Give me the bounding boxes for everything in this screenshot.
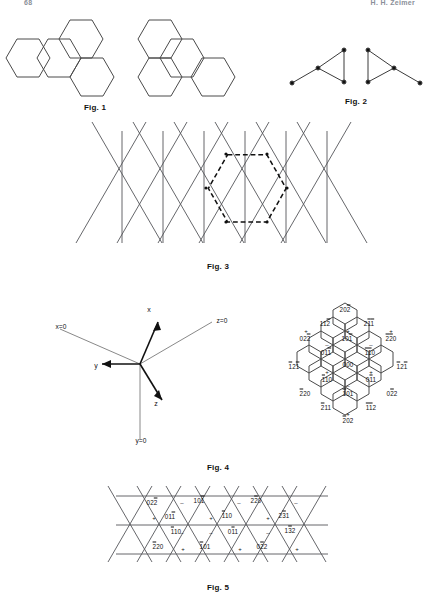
tri-label-101bar: 101 <box>194 497 205 504</box>
caption-fig3: Fig. 3 <box>207 262 229 271</box>
tri-sign-9: – <box>266 530 269 536</box>
hex-sign-3: + <box>389 328 393 334</box>
hex-label-112bar: 112 <box>320 320 330 327</box>
hex-label-202bar: 202 <box>340 306 351 313</box>
hex-sign-7: + <box>369 369 373 375</box>
fig5-diagonal-down-lines <box>108 486 326 562</box>
caption-fig4: Fig. 4 <box>207 463 229 472</box>
tri-sign-10: + <box>181 546 185 552</box>
hex-label-11bar0: 110 <box>365 349 375 356</box>
hex-label-01bar1: 011 <box>366 376 376 383</box>
axis-label-y-zero: y=0 <box>135 437 146 444</box>
tri-label-22bar0: 220 <box>251 497 262 504</box>
hex-label-022bar: 022 <box>300 335 311 342</box>
tri-sign-8: – <box>209 530 212 536</box>
tri-sign-6: + <box>266 515 270 521</box>
fig3-diagonal-up-lines <box>76 122 351 243</box>
hex-label-1bar10: 110 <box>322 376 332 383</box>
hex-label-101bar: 101 <box>342 335 353 342</box>
fig1-right-cluster <box>138 20 235 96</box>
figure-2-graphic <box>288 44 424 88</box>
axis-z-arrow <box>140 364 162 400</box>
caption-fig1: Fig. 1 <box>84 103 106 112</box>
fig2-right-graph <box>366 48 422 85</box>
tri-sign-5: + <box>209 515 213 521</box>
tri-label-13bar2: 132 <box>285 527 296 534</box>
tri-sign-11: + <box>238 546 242 552</box>
hex-sign-2: + <box>346 328 350 334</box>
hex-sign-1: + <box>304 328 308 334</box>
tri-label-1bar10: 110 <box>222 512 232 519</box>
figure-page: 68 H. H. Zeimer Fig. <box>0 0 437 603</box>
hex-sign-8: – <box>346 383 349 389</box>
figure-4-axes-graphic <box>40 296 230 446</box>
tri-label-01bar1: 011 <box>228 528 238 535</box>
caption-fig5: Fig. 5 <box>207 583 229 592</box>
fig3-dashed-hexagon <box>208 155 286 222</box>
tri-sign-2: – <box>237 500 240 506</box>
author-name: H. H. Zeimer <box>371 0 415 6</box>
fig2-left-graph <box>290 48 346 85</box>
tri-label-011bar: 011 <box>165 513 175 520</box>
hex-label-011bar: 011 <box>321 349 331 356</box>
tri-label-2bar20: 220 <box>153 543 164 550</box>
axis-label-x-zero: x=0 <box>55 323 66 330</box>
hex-sign-5: – <box>369 342 372 348</box>
hex-label-22bar0: 220 <box>386 335 397 342</box>
axis-x-zero-line <box>60 329 140 364</box>
hex-label-000: 000 <box>343 361 354 368</box>
hex-label-1bar1bar2: 112 <box>366 404 376 411</box>
tri-sign-3: – <box>294 500 297 506</box>
hex-label-21bar1bar: 211 <box>364 320 374 327</box>
hex-label-2bar11: 211 <box>321 404 331 411</box>
tri-label-1bar01: 101 <box>200 543 211 550</box>
hex-label-1bar21bar: 121 <box>289 363 300 370</box>
running-header: 68 H. H. Zeimer <box>0 0 437 10</box>
page-number: 68 <box>24 0 32 6</box>
hex-sign-6: + <box>325 369 329 375</box>
tri-label-02bar2: 022 <box>257 543 268 550</box>
figure-3-graphic <box>116 131 328 243</box>
fig1-left-cluster <box>6 20 114 96</box>
hex-label-02bar2: 022 <box>387 390 398 397</box>
figure-1-graphic <box>8 14 258 100</box>
tri-sign-12: + <box>295 546 299 552</box>
hex-label-2bar20: 220 <box>300 390 311 397</box>
tri-label-022bar: 022 <box>147 499 158 506</box>
axis-label-z: z <box>154 400 158 407</box>
axis-z-zero-line <box>140 322 212 364</box>
fig3-diagonal-down-lines <box>92 122 367 243</box>
hex-label-1bar01: 101 <box>343 390 354 397</box>
tri-sign-7: – <box>180 530 183 536</box>
hex-label-12bar1: 121 <box>397 363 408 370</box>
fig3-hexagon-nodes <box>204 152 288 223</box>
axis-label-z-zero: z=0 <box>216 317 227 324</box>
hex-label-2bar02: 202 <box>343 417 354 424</box>
axis-label-y: y <box>94 362 98 369</box>
tri-sign-1: – <box>180 500 183 506</box>
hex-sign-4: – <box>325 342 328 348</box>
caption-fig2: Fig. 2 <box>345 97 367 106</box>
tri-sign-4: + <box>152 515 156 521</box>
tri-label-23bar1: 231 <box>279 512 290 519</box>
hex-sign-9: + <box>346 411 350 417</box>
axis-label-x: x <box>147 306 151 313</box>
fig4-hex-cells <box>297 303 393 415</box>
